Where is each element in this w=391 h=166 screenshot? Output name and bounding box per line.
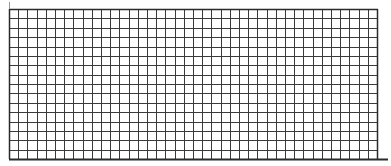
grid-canvas	[0, 0, 391, 166]
grid-paper	[0, 0, 391, 166]
